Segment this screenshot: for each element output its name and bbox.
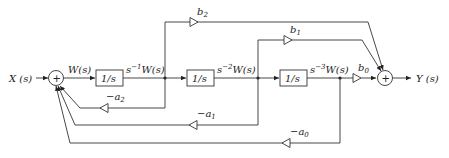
svg-text:1/s: 1/s — [101, 73, 116, 84]
gain-b2-icon — [190, 18, 198, 27]
gain-b0-icon — [353, 74, 361, 83]
gain-a2-label: −a2 — [106, 91, 125, 104]
gain-b1-icon — [284, 36, 292, 45]
gain-a2-icon — [100, 104, 108, 113]
gain-b2-label: b2 — [197, 6, 208, 19]
integrator-block-2: 1/s — [187, 70, 214, 86]
sum-symbol: + — [53, 73, 61, 84]
feedforward-b2: b2 — [165, 6, 383, 78]
svg-text:1/s: 1/s — [285, 73, 300, 84]
gain-b1-label: b1 — [290, 24, 301, 37]
integrator-block-1: 1/s — [96, 70, 123, 86]
output-sum-node: + — [378, 71, 393, 86]
s1w-label: s−1W(s) — [126, 63, 165, 75]
svg-text:+: + — [382, 73, 390, 84]
svg-text:1/s: 1/s — [192, 73, 207, 84]
block-diagram: X (s) + W(s) 1/s s−1W(s) 1/s s−2W(s) 1/s… — [0, 0, 449, 158]
input-sum-node: + — [49, 71, 64, 86]
input-label: X (s) — [8, 73, 32, 84]
gain-a0-icon — [282, 139, 290, 148]
output-label: Y (s) — [416, 73, 439, 84]
w-signal-label: W(s) — [68, 64, 91, 75]
gain-a1-icon — [189, 121, 197, 130]
s2w-label: s−2W(s) — [217, 63, 256, 75]
gain-a0-label: −a0 — [290, 126, 309, 139]
feedback-a1: −a1 — [58, 78, 258, 130]
s3w-label: s−3W(s) — [310, 63, 349, 75]
gain-a1-label: −a1 — [197, 108, 216, 121]
gain-b0-label: b0 — [358, 62, 369, 75]
integrator-block-3: 1/s — [280, 70, 307, 86]
